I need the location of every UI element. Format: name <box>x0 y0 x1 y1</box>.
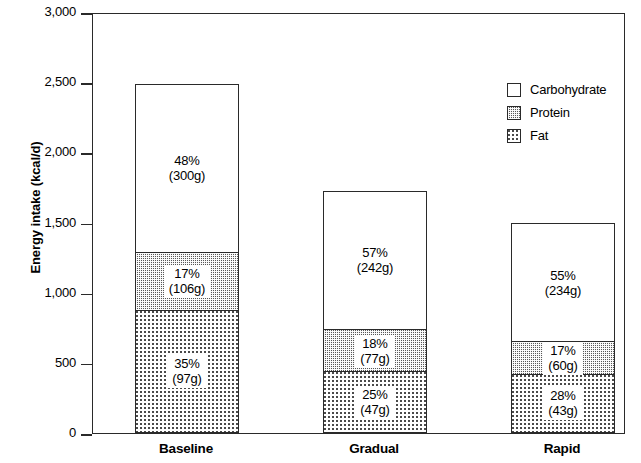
bar-segment-protein[interactable]: 18%(77g) <box>323 329 427 373</box>
legend-swatch-protein <box>507 106 521 120</box>
bar-baseline[interactable]: 48%(300g)17%(106g)35%(97g) <box>135 84 239 433</box>
y-tick-mark <box>81 13 92 15</box>
y-tick-label: 2,000 <box>44 144 76 159</box>
segment-value-label: 48%(300g) <box>164 152 210 185</box>
legend-item-protein[interactable]: Protein <box>507 101 606 124</box>
x-axis-label-gradual: Gradual <box>294 441 454 456</box>
segment-value-label: 17%(60g) <box>543 342 582 375</box>
bar-segment-carbohydrate[interactable]: 55%(234g) <box>511 223 615 342</box>
y-axis-title: Energy intake (kcal/d) <box>28 88 43 328</box>
segment-percent: 35% <box>172 356 201 371</box>
segment-grams: (97g) <box>172 371 201 386</box>
segment-value-label: 55%(234g) <box>540 267 586 300</box>
bar-segment-carbohydrate[interactable]: 57%(242g) <box>323 191 427 331</box>
legend-swatch-fat <box>507 129 521 143</box>
legend-swatch-carbohydrate <box>507 83 521 97</box>
bar-segment-protein[interactable]: 17%(60g) <box>511 341 615 375</box>
y-tick-label: 3,000 <box>44 4 76 19</box>
segment-grams: (77g) <box>360 351 389 366</box>
bar-segment-protein[interactable]: 17%(106g) <box>135 252 239 311</box>
bar-rapid[interactable]: 55%(234g)17%(60g)28%(43g) <box>511 223 615 433</box>
segment-percent: 17% <box>169 266 205 281</box>
segment-grams: (234g) <box>545 283 581 298</box>
segment-grams: (300g) <box>169 168 205 183</box>
y-tick-mark <box>81 294 92 296</box>
segment-value-label: 18%(77g) <box>355 335 394 368</box>
segment-grams: (47g) <box>360 402 389 417</box>
y-tick-mark <box>81 434 92 436</box>
y-tick-label: 2,500 <box>44 74 76 89</box>
segment-percent: 28% <box>548 388 577 403</box>
y-tick-mark <box>81 224 92 226</box>
segment-percent: 55% <box>545 268 581 283</box>
x-axis-label-rapid: Rapid <box>482 441 641 456</box>
stacked-bar-chart: Energy intake (kcal/d) 3,0002,5002,0001,… <box>0 0 641 463</box>
segment-grams: (60g) <box>548 358 577 373</box>
legend-item-carbohydrate[interactable]: Carbohydrate <box>507 78 606 101</box>
segment-value-label: 28%(43g) <box>543 387 582 420</box>
y-tick-label: 500 <box>55 355 76 370</box>
legend-label: Carbohydrate <box>530 82 606 97</box>
segment-percent: 18% <box>360 336 389 351</box>
legend-label: Protein <box>530 105 570 120</box>
y-tick-mark <box>81 364 92 366</box>
bar-segment-carbohydrate[interactable]: 48%(300g) <box>135 84 239 254</box>
y-tick-label: 1,500 <box>44 215 76 230</box>
y-tick-label: 1,000 <box>44 285 76 300</box>
bar-segment-fat[interactable]: 25%(47g) <box>323 371 427 433</box>
segment-value-label: 35%(97g) <box>167 355 206 388</box>
segment-value-label: 57%(242g) <box>352 244 398 277</box>
legend-item-fat[interactable]: Fat <box>507 124 606 147</box>
y-tick-mark <box>81 153 92 155</box>
bar-gradual[interactable]: 57%(242g)18%(77g)25%(47g) <box>323 191 427 433</box>
segment-percent: 57% <box>357 245 393 260</box>
segment-value-label: 25%(47g) <box>355 386 394 419</box>
y-tick-mark <box>81 83 92 85</box>
bar-segment-fat[interactable]: 28%(43g) <box>511 374 615 433</box>
segment-grams: (242g) <box>357 260 393 275</box>
bar-segment-fat[interactable]: 35%(97g) <box>135 310 239 433</box>
segment-percent: 25% <box>360 387 389 402</box>
segment-grams: (43g) <box>548 403 577 418</box>
legend-label: Fat <box>530 128 548 143</box>
segment-percent: 48% <box>169 153 205 168</box>
segment-grams: (106g) <box>169 281 205 296</box>
x-axis-label-baseline: Baseline <box>106 441 266 456</box>
y-tick-label: 0 <box>69 425 76 440</box>
segment-value-label: 17%(106g) <box>164 265 210 298</box>
segment-percent: 17% <box>548 343 577 358</box>
legend: CarbohydrateProteinFat <box>507 78 606 147</box>
plot-area: 48%(300g)17%(106g)35%(97g)57%(242g)18%(7… <box>92 13 625 434</box>
